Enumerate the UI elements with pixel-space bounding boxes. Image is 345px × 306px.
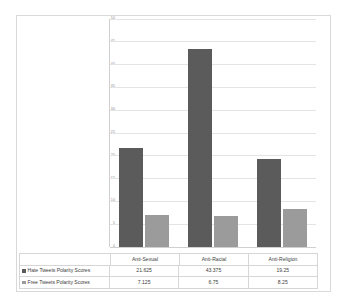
table-value-cell: 19.25	[249, 266, 318, 277]
table-value-cell: 8.25	[249, 277, 318, 288]
legend-item-series-0: Hate Tweets Polarity Scores	[20, 266, 110, 277]
bar	[188, 49, 212, 247]
table-corner-cell	[20, 254, 111, 265]
bar	[214, 216, 238, 247]
table-value-cell: 43.375	[179, 266, 248, 277]
table-value-cell: 7.125	[110, 277, 179, 288]
data-table: Anti-SexualAnti-RacialAnti-Religion Hate…	[19, 253, 318, 289]
legend-swatch-icon	[22, 269, 26, 273]
table-row: Free Tweets Polarity Scores 7.1256.758.2…	[20, 277, 318, 289]
bar-groups	[110, 19, 316, 247]
plot-area: 05101520253035404550	[17, 16, 330, 254]
bar	[119, 148, 143, 247]
bar-group	[110, 19, 179, 247]
bar	[257, 159, 281, 247]
plot-canvas	[109, 19, 316, 247]
bar-group	[179, 19, 248, 247]
bar	[283, 209, 307, 247]
table-value-cell: 6.75	[179, 277, 248, 288]
bar-group	[247, 19, 316, 247]
legend-label: Hate Tweets Polarity Scores	[28, 268, 91, 273]
table-category-header: Anti-Sexual	[111, 254, 180, 265]
y-axis: 05101520253035404550	[17, 19, 121, 247]
bar	[145, 215, 169, 247]
table-row: Hate Tweets Polarity Scores 21.62543.375…	[20, 266, 318, 278]
table-value-cell: 21.625	[110, 266, 179, 277]
chart-container: 05101520253035404550 Anti-SexualAnti-Rac…	[16, 15, 331, 292]
legend-label: Free Tweets Polarity Scores	[28, 280, 90, 285]
legend-swatch-icon	[22, 281, 26, 285]
legend-item-series-1: Free Tweets Polarity Scores	[20, 277, 110, 288]
table-category-header: Anti-Religion	[249, 254, 318, 265]
table-header-row: Anti-SexualAnti-RacialAnti-Religion	[20, 254, 318, 266]
table-category-header: Anti-Racial	[180, 254, 249, 265]
